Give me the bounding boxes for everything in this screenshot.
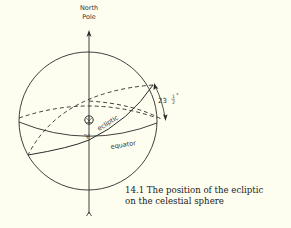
angle-denominator: 2 — [172, 100, 175, 105]
north-pole-label-line1: North — [70, 4, 108, 12]
obliquity-angle-label: 23 1 2 ° — [158, 92, 179, 105]
angle-whole: 23 — [158, 97, 167, 105]
angle-numerator: 1 — [172, 94, 175, 99]
obliquity-arrow-down-icon — [163, 114, 168, 121]
celestial-sphere-outline — [19, 52, 157, 190]
celestial-sphere-figure: ♈ ecliptic equator 23 1 2 ° North Pole 1… — [0, 0, 291, 228]
angle-degree-sign: ° — [176, 92, 179, 98]
figure-caption-line2: on the celestial sphere — [125, 196, 224, 207]
figure-caption-line1: 14.1 The position of the ecliptic — [125, 185, 263, 196]
vernal-equinox-aries-symbol: ♈ — [84, 133, 90, 141]
north-pole-label-line2: Pole — [70, 13, 108, 21]
obliquity-arrow-up-icon — [154, 83, 159, 90]
equator-label: equator — [110, 139, 137, 151]
sun-icon — [85, 116, 93, 124]
ecliptic-back-inner-dashed — [89, 101, 163, 120]
